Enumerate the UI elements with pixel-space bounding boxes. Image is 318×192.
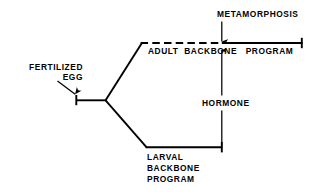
label-hormone: HORMONE — [202, 98, 250, 108]
label-larval-line2: BACKBONE — [147, 163, 200, 173]
label-fertilized-egg: FERTILIZEDEGG — [13, 62, 83, 82]
label-larval-line1: LARVAL — [147, 152, 184, 162]
label-larval-backbone-program: LARVALBACKBONEPROGRAM — [147, 152, 200, 185]
fertilized-egg-arrow — [58, 81, 76, 94]
label-larval-line3: PROGRAM — [147, 174, 195, 184]
adult-diagonal — [106, 44, 142, 101]
label-fertilized-egg-line1: FERTILIZED — [29, 62, 83, 72]
pathway-diagram: FERTILIZEDEGG METAMORPHOSIS ADULT BACKBO… — [0, 0, 318, 192]
label-metamorphosis: METAMORPHOSIS — [217, 9, 298, 19]
label-adult-backbone-program: ADULT BACKBONE PROGRAM — [148, 46, 293, 56]
label-fertilized-egg-line2: EGG — [63, 72, 83, 82]
larval-diagonal — [106, 100, 147, 147]
